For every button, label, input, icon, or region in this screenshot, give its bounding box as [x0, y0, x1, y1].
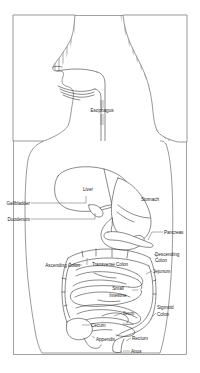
label-sigmoid-colon-line2: Colon — [157, 312, 169, 317]
digestive-system-diagram: Esophagus Liver Stomach Gallbladder Duod… — [0, 0, 200, 373]
label-descending-colon-line1: Descending — [155, 252, 180, 257]
label-gallbladder: Gallbladder — [7, 201, 31, 206]
label-jejunum: Jejunum — [153, 269, 171, 274]
cecum-organ — [66, 318, 92, 340]
label-small-intestine-line2: Intestine — [109, 293, 127, 298]
head-neck-right-silhouette — [123, 15, 187, 142]
label-anus: Anus — [131, 349, 142, 354]
label-transverse-colon: Transverse Colon — [92, 262, 129, 267]
lip-line — [53, 66, 62, 67]
label-sigmoid-colon-line1: Sigmoid — [157, 305, 174, 310]
label-small-intestine-line1: Small — [112, 286, 124, 291]
hard-palate — [57, 69, 97, 72]
label-esophagus: Esophagus — [91, 108, 115, 113]
label-rectum: Rectum — [132, 336, 148, 341]
label-cecum: Cecum — [91, 323, 106, 328]
label-ileum: Ileum — [123, 311, 134, 316]
head-neck-left-silhouette — [13, 15, 75, 141]
label-ascending-colon: Ascending Colon — [45, 263, 80, 268]
label-pancreas: Pancreas — [164, 230, 184, 235]
anatomy-illustration: Esophagus Liver Stomach Gallbladder Duod… — [0, 0, 200, 373]
label-duodenum: Duodenum — [8, 217, 31, 222]
label-stomach: Stomach — [141, 197, 160, 202]
label-liver: Liver — [83, 187, 93, 192]
label-appendix: Appendix — [96, 337, 116, 342]
label-descending-colon-line2: Colon — [155, 258, 167, 263]
